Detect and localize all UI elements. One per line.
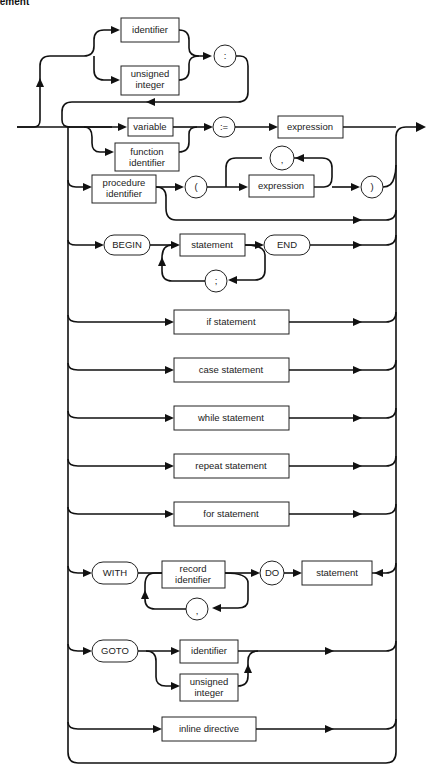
arrow-icon — [83, 647, 92, 655]
arrow-icon — [83, 569, 92, 577]
arrow-icon — [165, 414, 174, 422]
label-prefix-branch: identifier unsigned integer : — [17, 18, 248, 127]
arrow-icon — [95, 241, 104, 249]
connector-line — [68, 459, 166, 466]
arrow-icon — [171, 241, 180, 249]
arrow-icon — [353, 366, 362, 374]
arrow-icon — [171, 682, 180, 690]
connector-line — [94, 56, 118, 80]
connector-line — [289, 504, 396, 514]
arrow-icon — [212, 604, 221, 612]
node-label: identifier — [175, 574, 211, 585]
arrow-icon — [351, 183, 360, 191]
connector-line — [289, 408, 396, 418]
if-statement-branch: if statement — [68, 310, 396, 334]
arrow-icon — [153, 725, 162, 733]
arrow-icon — [374, 569, 383, 577]
connector-line — [179, 127, 197, 152]
node-label: repeat statement — [195, 460, 267, 471]
arrow-icon — [228, 276, 237, 284]
connector-line — [383, 165, 396, 187]
node-label: inline directive — [179, 723, 239, 734]
arrow-icon — [146, 98, 155, 106]
arrow-icon — [353, 241, 362, 249]
arrow-icon — [269, 123, 278, 131]
arrow-icon — [325, 647, 334, 655]
compound-statement-branch: BEGIN statement END ; — [68, 234, 396, 292]
arrow-icon — [165, 366, 174, 374]
node-label: END — [277, 239, 297, 250]
arrow-icon — [204, 123, 213, 131]
node-label: statement — [316, 567, 358, 578]
connector-line — [68, 315, 166, 322]
node-label: , — [196, 605, 199, 616]
arrow-icon — [251, 569, 260, 577]
node-label: : — [224, 50, 227, 61]
node-label: , — [281, 154, 284, 165]
arrow-icon — [353, 462, 362, 470]
node-label: BEGIN — [112, 239, 142, 250]
node-label: variable — [133, 121, 166, 132]
arrow-icon — [83, 183, 92, 191]
node-label: while statement — [197, 412, 264, 423]
arrow-icon — [293, 569, 302, 577]
node-label: ) — [370, 181, 373, 192]
node-label: := — [220, 121, 229, 132]
node-label: statement — [191, 239, 233, 250]
connector-line — [179, 56, 199, 80]
arrow-icon — [353, 510, 362, 518]
connector-line — [17, 30, 118, 127]
connector-line — [238, 641, 396, 651]
node-label: expression — [287, 121, 333, 132]
arrow-icon — [165, 462, 174, 470]
goto-statement-branch: GOTO identifier unsigned integer — [68, 640, 396, 701]
with-statement-branch: WITH record identifier DO statement , — [68, 561, 396, 620]
connector-line — [68, 180, 84, 187]
arrow-icon — [118, 123, 127, 131]
node-label: ; — [215, 275, 218, 286]
arrow-icon — [165, 510, 174, 518]
node-label: GOTO — [101, 645, 129, 656]
node-label: unsigned — [131, 68, 170, 79]
arrow-icon — [203, 52, 212, 60]
exit-arrow-icon — [416, 122, 426, 132]
inline-directive-branch: inline directive — [68, 717, 396, 741]
arrow-icon — [111, 26, 120, 34]
arrow-icon — [325, 725, 334, 733]
arrow-icon — [353, 216, 362, 224]
arrow-icon — [141, 590, 149, 599]
arrow-icon — [295, 154, 304, 162]
arrow-icon — [36, 78, 44, 87]
connector-line — [372, 563, 396, 573]
arrow-icon — [244, 664, 252, 673]
node-label: identifier — [106, 188, 142, 199]
diagram-title: statement — [0, 0, 30, 7]
node-label: function — [130, 146, 163, 157]
arrow-icon — [353, 318, 362, 326]
node-label: procedure — [103, 177, 146, 188]
node-label: integer — [194, 687, 223, 698]
repeat-statement-branch: repeat statement — [68, 454, 396, 478]
node-label: case statement — [199, 364, 264, 375]
node-label: identifier — [132, 24, 168, 35]
connector-line — [68, 240, 98, 245]
node-label: if statement — [206, 316, 255, 327]
arrow-icon — [111, 76, 120, 84]
arrow-icon — [239, 183, 248, 191]
left-spine — [68, 127, 418, 763]
connector-line — [146, 651, 172, 686]
connector-line — [84, 127, 105, 152]
connector-line — [289, 312, 396, 322]
connector-line — [68, 722, 154, 729]
node-label: unsigned — [190, 676, 229, 687]
connector-line — [179, 30, 204, 56]
arrow-icon — [353, 414, 362, 422]
connector-line — [68, 507, 166, 514]
arrow-icon — [105, 148, 114, 156]
case-statement-branch: case statement — [68, 358, 396, 382]
node-label: expression — [258, 180, 304, 191]
arrow-icon — [165, 318, 174, 326]
node-label: WITH — [103, 567, 127, 578]
node-label: record — [180, 563, 207, 574]
connector-line — [289, 360, 396, 370]
